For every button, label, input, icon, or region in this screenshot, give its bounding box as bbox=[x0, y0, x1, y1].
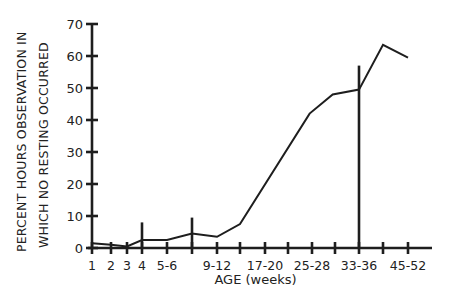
x-tick-label: 3 bbox=[123, 258, 131, 273]
x-tick-label: 25-28 bbox=[294, 258, 330, 273]
x-tick-labels: 12345-69-1217-2025-2833-3645-52 bbox=[88, 258, 426, 273]
x-tick-label: 4 bbox=[138, 258, 146, 273]
error-bars bbox=[142, 66, 359, 248]
x-tick-label: 45-52 bbox=[390, 258, 426, 273]
x-tick-label: 9-12 bbox=[203, 258, 231, 273]
x-tick-label: 1 bbox=[88, 258, 96, 273]
y-axis-label-line-1: PERCENT HOURS OBSERVATION IN bbox=[14, 31, 29, 252]
y-axis-label-line-2: WHICH NO RESTING OCCURRED bbox=[36, 42, 51, 248]
data-series-line bbox=[92, 45, 408, 247]
x-tick-label: 5-6 bbox=[157, 258, 177, 273]
x-axis-label: AGE (weeks) bbox=[0, 272, 451, 287]
x-tick-label: 17-20 bbox=[247, 258, 283, 273]
axes bbox=[86, 24, 432, 254]
y-axis-label: PERCENT HOURS OBSERVATION IN WHICH NO RE… bbox=[0, 0, 80, 306]
x-tick-label: 33-36 bbox=[341, 258, 377, 273]
x-tick-label: 2 bbox=[107, 258, 115, 273]
